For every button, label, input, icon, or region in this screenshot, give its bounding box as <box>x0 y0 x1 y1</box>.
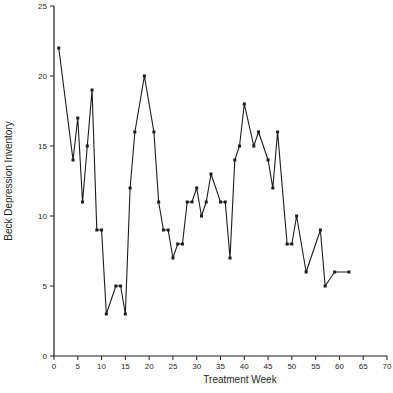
x-tick-label: 55 <box>311 362 320 371</box>
x-tick-label: 30 <box>192 362 201 371</box>
data-point-marker <box>105 313 108 316</box>
data-point-marker <box>152 131 155 134</box>
data-point-marker <box>57 47 60 50</box>
x-tick-label: 70 <box>383 362 392 371</box>
x-tick-label: 45 <box>264 362 273 371</box>
y-tick-label: 5 <box>43 282 48 291</box>
data-point-marker <box>347 271 350 274</box>
data-point-marker <box>243 103 246 106</box>
data-point-marker <box>319 229 322 232</box>
data-point-marker <box>205 201 208 204</box>
x-tick-label: 25 <box>168 362 177 371</box>
x-tick-label: 65 <box>359 362 368 371</box>
data-point-marker <box>267 159 270 162</box>
axis-lines <box>54 6 387 356</box>
data-point-marker <box>219 201 222 204</box>
data-point-marker <box>124 313 127 316</box>
y-tick-label: 0 <box>43 352 48 361</box>
data-point-marker <box>295 215 298 218</box>
data-point-marker <box>143 75 146 78</box>
x-tick-label: 10 <box>97 362 106 371</box>
x-tick-label: 15 <box>121 362 130 371</box>
bdi-chart-figure: 05101520253035404550556065700510152025 T… <box>0 0 393 393</box>
data-point-marker <box>200 215 203 218</box>
data-point-marker <box>276 131 279 134</box>
data-point-marker <box>305 271 308 274</box>
data-point-marker <box>271 187 274 190</box>
data-point-marker <box>86 145 89 148</box>
data-point-marker <box>129 187 132 190</box>
data-point-marker <box>76 117 79 120</box>
bdi-line-chart: 05101520253035404550556065700510152025 T… <box>0 0 393 393</box>
x-tick-label: 0 <box>52 362 57 371</box>
y-axis-label: Beck Depression Inventory <box>3 121 14 241</box>
data-point-marker <box>91 89 94 92</box>
y-tick-label: 20 <box>38 72 47 81</box>
data-point-marker <box>286 243 289 246</box>
series-line <box>59 48 349 314</box>
x-axis-label: Treatment Week <box>203 374 277 385</box>
plot-area: 05101520253035404550556065700510152025 <box>38 2 392 371</box>
data-point-marker <box>257 131 260 134</box>
data-point-marker <box>333 271 336 274</box>
x-tick-label: 50 <box>287 362 296 371</box>
y-tick-label: 15 <box>38 142 47 151</box>
data-point-marker <box>133 131 136 134</box>
data-point-marker <box>195 187 198 190</box>
data-point-marker <box>157 201 160 204</box>
data-point-marker <box>290 243 293 246</box>
data-point-marker <box>81 201 84 204</box>
y-tick-label: 25 <box>38 2 47 11</box>
data-point-marker <box>119 285 122 288</box>
data-point-marker <box>72 159 75 162</box>
data-point-marker <box>167 229 170 232</box>
x-tick-label: 40 <box>240 362 249 371</box>
data-point-marker <box>209 173 212 176</box>
data-point-marker <box>100 229 103 232</box>
data-point-marker <box>181 243 184 246</box>
data-point-marker <box>95 229 98 232</box>
data-point-marker <box>229 257 232 260</box>
x-tick-label: 5 <box>76 362 81 371</box>
data-point-marker <box>224 201 227 204</box>
data-point-marker <box>252 145 255 148</box>
data-point-marker <box>171 257 174 260</box>
data-point-marker <box>324 285 327 288</box>
y-tick-label: 10 <box>38 212 47 221</box>
data-point-marker <box>233 159 236 162</box>
data-point-marker <box>162 229 165 232</box>
data-point-marker <box>186 201 189 204</box>
x-tick-label: 60 <box>335 362 344 371</box>
data-point-marker <box>238 145 241 148</box>
data-point-marker <box>190 201 193 204</box>
data-point-marker <box>176 243 179 246</box>
data-point-marker <box>114 285 117 288</box>
x-tick-label: 20 <box>145 362 154 371</box>
x-tick-label: 35 <box>216 362 225 371</box>
